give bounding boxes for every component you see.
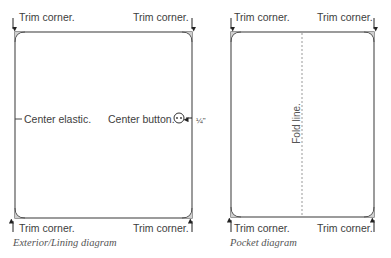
fold-line-label: Fold line.: [291, 103, 302, 144]
trim-corner-label: Trim corner.: [133, 222, 189, 234]
trim-corner-label: Trim corner.: [317, 11, 373, 23]
trim-corner-label: Trim corner.: [19, 11, 75, 23]
button-icon: [174, 113, 184, 123]
diagram-shapes: [0, 0, 391, 258]
exterior-lining-caption: Exterior/Lining diagram: [13, 237, 117, 248]
pocket-caption: Pocket diagram: [230, 237, 297, 248]
trim-corner-label: Trim corner.: [234, 11, 290, 23]
diagram-canvas: Trim corner. Trim corner. Center elastic…: [0, 0, 391, 258]
center-button-label: Center button.: [108, 113, 175, 125]
center-elastic-label: Center elastic.: [24, 113, 91, 125]
trim-corner-label: Trim corner.: [234, 222, 290, 234]
trim-corner-label: Trim corner.: [133, 11, 189, 23]
exterior-lining-outline: [15, 32, 192, 218]
button-offset-label: ¼": [196, 115, 206, 127]
trim-corner-label: Trim corner.: [19, 222, 75, 234]
trim-corner-label: Trim corner.: [317, 222, 373, 234]
